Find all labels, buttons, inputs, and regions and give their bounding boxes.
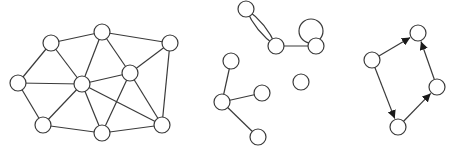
graph-node (293, 74, 309, 90)
graph-node (43, 35, 59, 51)
graph-node (250, 129, 266, 145)
directed-cycle-graph (375, 38, 434, 122)
graph-node (94, 125, 110, 141)
graph-node (223, 53, 239, 69)
edge (102, 73, 130, 133)
edge (102, 32, 170, 43)
graph-node (429, 79, 445, 95)
graph-node (154, 117, 170, 133)
graph-diagram (0, 0, 452, 152)
graph-node (35, 117, 51, 133)
nodes-layer (10, 1, 445, 145)
multigraph-with-loop (222, 9, 323, 137)
graph-node (410, 25, 426, 41)
graph-node (214, 94, 230, 110)
directed-edge (421, 41, 434, 79)
directed-edge (404, 93, 431, 121)
edge (102, 125, 162, 133)
graph-node (94, 24, 110, 40)
graph-node (390, 119, 406, 135)
graph-node (268, 38, 284, 54)
graph-node (364, 52, 380, 68)
graph-node (308, 38, 324, 54)
graph-node (162, 35, 178, 51)
edges-layer (18, 9, 434, 137)
graph-node (254, 85, 270, 101)
graph-node (238, 1, 254, 17)
edge (162, 43, 170, 125)
graph-node (10, 75, 26, 91)
directed-edge (379, 38, 410, 56)
edge (18, 83, 82, 84)
directed-edge (375, 67, 395, 118)
graph-node (122, 65, 138, 81)
edge (43, 125, 102, 133)
graph-node (74, 76, 90, 92)
